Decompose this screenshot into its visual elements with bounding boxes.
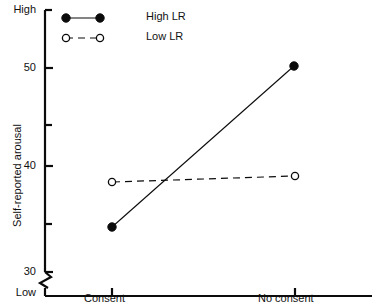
series-line-high-lr xyxy=(112,66,294,227)
legend-label-low-lr: Low LR xyxy=(146,30,183,42)
data-point-high-lr-no-consent xyxy=(290,62,298,70)
legend-label-high-lr: High LR xyxy=(146,10,186,22)
y-axis-label-low: Low xyxy=(0,287,36,298)
data-point-low-lr-no-consent xyxy=(291,172,298,179)
data-point-low-lr-consent xyxy=(108,178,115,185)
series-line-low-lr xyxy=(113,176,294,182)
x-axis-label-consent: Consent xyxy=(84,293,125,304)
x-axis-label-no-consent: No consent xyxy=(258,293,314,304)
legend-item-high-lr: High LR xyxy=(58,8,218,28)
y-axis-label-high: High xyxy=(0,4,36,15)
y-axis-title: Self-reported arousal xyxy=(12,106,23,246)
line-chart-figure: High LR Low LR High 50 40 30 Low Self-re… xyxy=(0,0,377,308)
y-axis-label-30: 30 xyxy=(0,266,36,277)
y-axis-label-50: 50 xyxy=(0,62,36,73)
data-point-high-lr-consent xyxy=(108,223,116,231)
chart-legend: High LR Low LR xyxy=(58,8,218,50)
y-axis-break-icon xyxy=(40,272,51,288)
legend-item-low-lr: Low LR xyxy=(58,28,218,48)
legend-swatch-low-lr xyxy=(58,28,148,48)
legend-swatch-high-lr xyxy=(58,8,148,28)
